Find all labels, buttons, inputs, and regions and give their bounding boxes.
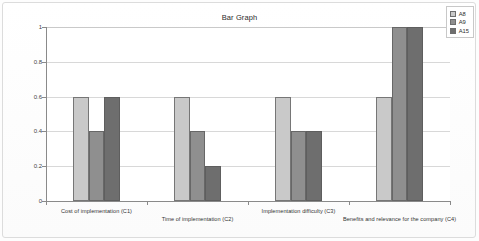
bar-A15-c3 [306,131,321,201]
y-tick-mark [42,166,46,167]
bar-A8-c2 [174,97,189,201]
x-axis-category-label: Cost of implementation (C1) [61,208,132,214]
bar-A15-c2 [205,166,220,201]
x-axis-category-label: Benefits and relevance for the company (… [343,216,456,222]
bar-A8-c1 [73,97,88,201]
legend-item-label: A9 [459,18,466,26]
x-axis-category-label: Time of implementation (C2) [162,216,234,222]
y-tick-label: 0.4 [2,128,42,134]
x-tick-mark [46,201,47,205]
bar-A9-c4 [392,27,407,201]
bar-A15-c4 [407,27,422,201]
bar-A9-c3 [291,131,306,201]
y-axis-line [46,27,47,202]
x-tick-mark [147,201,148,205]
x-tick-mark [450,201,451,205]
legend-item-A8[interactable]: A8 [450,10,469,18]
x-tick-mark [248,201,249,205]
gridline [46,62,450,63]
y-tick-label: 0 [2,198,42,204]
x-axis-category-label: Implementation difficulty (C3) [262,208,336,214]
gridline [46,27,450,28]
y-tick-label: 1 [2,24,42,30]
chart-title: Bar Graph [0,13,479,22]
bar-A9-c1 [89,131,104,201]
y-tick-mark [42,131,46,132]
legend-swatch-icon [450,19,456,25]
legend-item-label: A8 [459,10,466,18]
y-tick-label: 0.2 [2,163,42,169]
bar-A15-c1 [104,97,119,201]
bar-A8-c4 [376,97,391,201]
legend-item-A9[interactable]: A9 [450,18,469,26]
bar-A9-c2 [190,131,205,201]
plot-area [46,27,450,201]
y-tick-mark [42,27,46,28]
legend-item-A15[interactable]: A15 [450,27,469,35]
y-tick-mark [42,97,46,98]
legend-item-label: A15 [459,27,469,35]
chart-legend: A8A9A15 [446,6,474,38]
y-tick-mark [42,62,46,63]
y-tick-label: 0.6 [2,94,42,100]
legend-swatch-icon [450,11,456,17]
y-tick-label: 0.8 [2,59,42,65]
x-tick-mark [349,201,350,205]
bar-A8-c3 [275,97,290,201]
legend-swatch-icon [450,28,456,34]
bar-chart-panel: Bar Graph 00.20.40.60.81 Cost of impleme… [0,0,479,241]
